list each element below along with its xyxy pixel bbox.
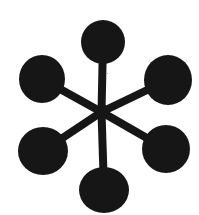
node-bottom	[79, 167, 129, 213]
radial-hub-glyph: Radial hub-and-spoke glyph Six filled ci…	[0, 0, 199, 215]
image-canvas: Radial hub-and-spoke glyph Six filled ci…	[0, 0, 199, 215]
node-lower-right	[142, 125, 190, 173]
center-hub	[96, 106, 108, 118]
node-top	[81, 20, 125, 64]
node-upper-left	[19, 55, 65, 103]
node-upper-right	[144, 55, 192, 105]
node-lower-left	[18, 127, 68, 175]
